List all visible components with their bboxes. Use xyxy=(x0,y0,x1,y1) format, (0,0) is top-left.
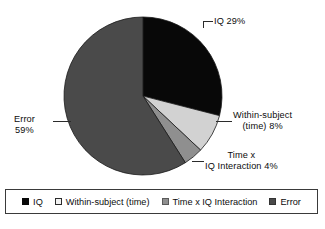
legend-label: IQ xyxy=(33,197,43,207)
legend-item-iq[interactable]: IQ xyxy=(22,197,43,207)
slice-label-time-iq-interaction-line2: IQ Interaction 4% xyxy=(205,161,278,172)
slice-label-within-subject: Within-subject (time) 8% xyxy=(233,110,292,132)
pie-chart: IQ 29% Within-subject (time) 8% Time x I… xyxy=(0,0,325,229)
leader-line-iq xyxy=(203,21,213,28)
legend-swatch-icon xyxy=(55,198,62,205)
slice-label-error: Error 59% xyxy=(14,114,35,136)
slice-label-iq: IQ 29% xyxy=(214,16,245,27)
slice-label-error-line1: Error xyxy=(14,114,35,125)
slice-label-within-subject-line1: Within-subject xyxy=(233,110,292,121)
legend-item-within-subject-time[interactable]: Within-subject (time) xyxy=(55,197,150,207)
chart-legend: IQWithin-subject (time)Time x IQ Interac… xyxy=(5,189,318,214)
legend-swatch-icon xyxy=(269,198,276,205)
legend-item-time-x-iq-interaction[interactable]: Time x IQ Interaction xyxy=(162,197,258,207)
legend-label: Time x IQ Interaction xyxy=(173,197,258,207)
pie-slice-group xyxy=(64,17,222,175)
legend-swatch-icon xyxy=(162,198,169,205)
legend-swatch-icon xyxy=(22,198,29,205)
legend-label: Within-subject (time) xyxy=(66,197,150,207)
slice-label-error-line2: 59% xyxy=(14,125,35,136)
slice-label-within-subject-line2: (time) 8% xyxy=(233,121,292,132)
slice-label-time-iq-interaction: Time x IQ Interaction 4% xyxy=(205,150,278,172)
legend-item-error[interactable]: Error xyxy=(269,197,300,207)
legend-label: Error xyxy=(280,197,300,207)
slice-label-time-iq-interaction-line1: Time x xyxy=(205,150,278,161)
slice-label-iq-line1: IQ 29% xyxy=(214,16,245,27)
